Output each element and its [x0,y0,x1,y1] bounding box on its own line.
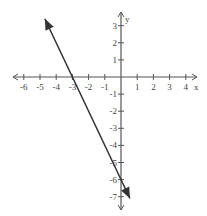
function-line [45,19,130,199]
y-tick-label: -1 [110,89,118,99]
y-tick-label: -2 [110,106,118,116]
y-tick-label: 1 [113,55,118,65]
y-tick-label: -4 [110,140,118,150]
tick-marks [24,26,186,197]
x-tick-label: -5 [36,82,44,92]
y-axis-label: y [125,14,130,24]
x-tick-label: 4 [184,82,189,92]
x-tick-label: -6 [20,82,28,92]
y-tick-label: -6 [110,175,118,185]
y-tick-label: 3 [113,21,118,31]
x-tick-label: 2 [151,82,156,92]
tick-labels: -6-5-4-3-2-11234321-1-2-3-4-5-6-7 [20,21,189,202]
x-tick-label: -1 [101,82,109,92]
x-tick-label: 3 [167,82,172,92]
y-tick-label: -3 [110,123,118,133]
line-start-arrow-icon [45,19,54,31]
x-tick-label: -4 [52,82,60,92]
x-tick-label: -2 [85,82,93,92]
coordinate-plane: -6-5-4-3-2-11234321-1-2-3-4-5-6-7 x y [0,0,207,216]
y-tick-label: -7 [110,192,118,202]
x-axis-label: x [194,82,199,92]
x-tick-label: 1 [135,82,140,92]
axes [13,12,197,210]
y-tick-label: 2 [113,38,118,48]
graph-line [45,19,130,199]
